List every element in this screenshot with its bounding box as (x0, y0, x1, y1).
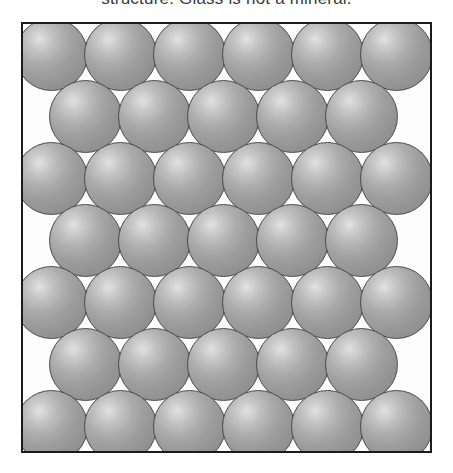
lattice-frame (21, 22, 432, 453)
caption-strip: structure. Glass is not a mineral. (0, 0, 453, 12)
lattice-sphere (291, 390, 364, 453)
lattice-sphere (360, 390, 432, 453)
lattice-sphere (84, 390, 157, 453)
lattice-sphere (360, 266, 432, 339)
lattice-sphere (222, 390, 295, 453)
sphere-lattice (23, 24, 430, 451)
figure-caption: structure. Glass is not a mineral. (101, 0, 352, 9)
lattice-sphere (360, 142, 432, 215)
lattice-sphere (153, 390, 226, 453)
